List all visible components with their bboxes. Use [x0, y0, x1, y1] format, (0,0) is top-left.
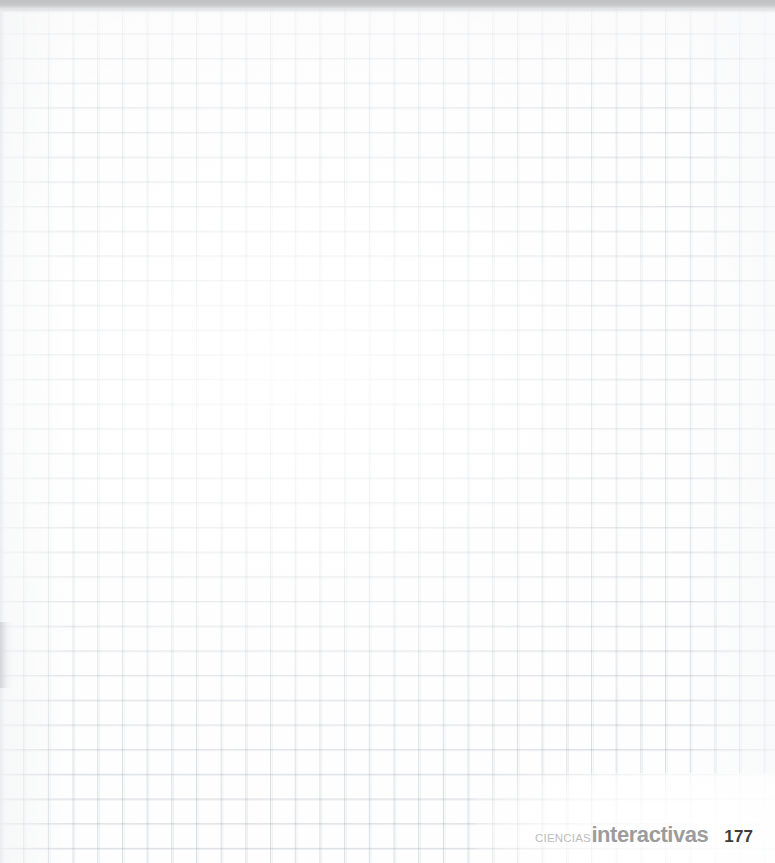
graph-paper-grid-ghost: [0, 0, 775, 863]
colophon: CIENCIAS interactivas 177: [535, 822, 753, 848]
page-canvas: CIENCIAS interactivas 177: [0, 0, 775, 863]
scan-edge-shadow: [0, 9, 775, 13]
brand-name-primary: CIENCIAS: [535, 832, 591, 844]
graph-paper-grid: [0, 0, 775, 863]
paper-shading-overlay: [0, 0, 775, 863]
left-margin-smudge: [0, 622, 13, 688]
page-number: 177: [724, 827, 753, 847]
footer-paper-wash: [475, 773, 775, 863]
brand-name-secondary: interactivas: [591, 822, 708, 848]
scan-edge-band: [0, 0, 775, 9]
left-margin-gutter: [0, 9, 5, 863]
